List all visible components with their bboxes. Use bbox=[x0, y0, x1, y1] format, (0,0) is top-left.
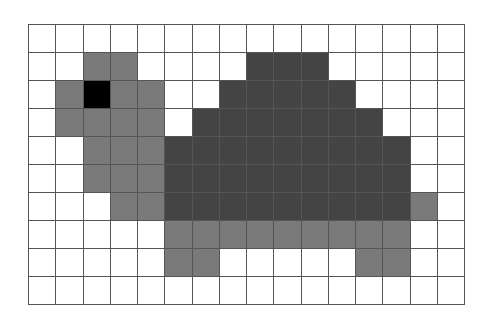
grid-cell-white bbox=[165, 81, 192, 109]
grid-cell-dark-gray bbox=[302, 137, 329, 165]
grid-cell-white bbox=[356, 81, 383, 109]
grid-cell-mid-gray bbox=[84, 137, 111, 165]
grid-cell-mid-gray bbox=[111, 53, 138, 81]
grid-cell-white bbox=[165, 277, 192, 305]
grid-cell-white bbox=[438, 249, 465, 277]
grid-cell-white bbox=[383, 81, 410, 109]
grid-cell-dark-gray bbox=[247, 193, 274, 221]
grid-cell-white bbox=[329, 25, 356, 53]
grid-cell-dark-gray bbox=[356, 165, 383, 193]
grid-cell-white bbox=[138, 25, 165, 53]
grid-cell-dark-gray bbox=[193, 137, 220, 165]
grid-cell-mid-gray bbox=[138, 81, 165, 109]
grid-cell-mid-gray bbox=[356, 249, 383, 277]
grid-cell-white bbox=[84, 277, 111, 305]
grid-cell-mid-gray bbox=[383, 221, 410, 249]
grid-cell-dark-gray bbox=[193, 193, 220, 221]
grid-cell-dark-gray bbox=[356, 193, 383, 221]
grid-cell-mid-gray bbox=[111, 165, 138, 193]
grid-cell-white bbox=[29, 25, 56, 53]
grid-cell-white bbox=[56, 53, 83, 81]
grid-cell-mid-gray bbox=[193, 249, 220, 277]
grid-cell-white bbox=[383, 109, 410, 137]
grid-cell-white bbox=[29, 277, 56, 305]
grid-cell-white bbox=[29, 249, 56, 277]
grid-cell-dark-gray bbox=[274, 137, 301, 165]
grid-cell-white bbox=[329, 249, 356, 277]
grid-cell-white bbox=[247, 277, 274, 305]
grid-cell-white bbox=[438, 137, 465, 165]
grid-cell-white bbox=[56, 193, 83, 221]
grid-cell-white bbox=[29, 81, 56, 109]
grid-cell-dark-gray bbox=[302, 165, 329, 193]
grid-cell-white bbox=[29, 137, 56, 165]
grid-cell-white bbox=[29, 221, 56, 249]
grid-cell-dark-gray bbox=[193, 109, 220, 137]
grid-cell-dark-gray bbox=[302, 53, 329, 81]
grid-cell-white bbox=[165, 25, 192, 53]
grid-cell-white bbox=[329, 277, 356, 305]
grid-cell-dark-gray bbox=[220, 165, 247, 193]
grid-cell-black bbox=[84, 81, 111, 109]
pixel-grid bbox=[28, 24, 465, 305]
grid-cell-white bbox=[29, 53, 56, 81]
grid-cell-dark-gray bbox=[274, 109, 301, 137]
grid-cell-white bbox=[193, 81, 220, 109]
grid-cell-mid-gray bbox=[302, 221, 329, 249]
grid-cell-white bbox=[411, 81, 438, 109]
grid-cell-white bbox=[84, 25, 111, 53]
grid-cell-white bbox=[138, 221, 165, 249]
grid-cell-mid-gray bbox=[84, 53, 111, 81]
grid-cell-dark-gray bbox=[329, 165, 356, 193]
grid-cell-mid-gray bbox=[411, 193, 438, 221]
grid-cell-white bbox=[56, 137, 83, 165]
grid-cell-mid-gray bbox=[220, 221, 247, 249]
grid-cell-white bbox=[220, 25, 247, 53]
grid-cell-white bbox=[220, 53, 247, 81]
grid-cell-white bbox=[29, 165, 56, 193]
grid-cell-dark-gray bbox=[329, 109, 356, 137]
grid-cell-dark-gray bbox=[165, 165, 192, 193]
grid-cell-white bbox=[438, 25, 465, 53]
grid-cell-mid-gray bbox=[356, 221, 383, 249]
grid-cell-white bbox=[438, 193, 465, 221]
grid-cell-dark-gray bbox=[274, 193, 301, 221]
grid-cell-dark-gray bbox=[220, 109, 247, 137]
grid-cell-dark-gray bbox=[329, 137, 356, 165]
grid-cell-white bbox=[411, 221, 438, 249]
grid-cell-white bbox=[56, 249, 83, 277]
grid-cell-white bbox=[84, 221, 111, 249]
grid-cell-white bbox=[247, 249, 274, 277]
grid-cell-white bbox=[138, 277, 165, 305]
grid-cell-dark-gray bbox=[383, 165, 410, 193]
grid-cell-mid-gray bbox=[111, 109, 138, 137]
grid-cell-mid-gray bbox=[138, 165, 165, 193]
grid-cell-white bbox=[165, 53, 192, 81]
grid-cell-white bbox=[438, 277, 465, 305]
grid-cell-white bbox=[111, 277, 138, 305]
grid-cell-white bbox=[274, 249, 301, 277]
grid-cell-white bbox=[274, 277, 301, 305]
grid-cell-white bbox=[329, 53, 356, 81]
grid-cell-mid-gray bbox=[383, 249, 410, 277]
grid-cell-white bbox=[56, 165, 83, 193]
grid-cell-dark-gray bbox=[383, 193, 410, 221]
grid-cell-mid-gray bbox=[56, 109, 83, 137]
grid-cell-mid-gray bbox=[84, 165, 111, 193]
grid-cell-white bbox=[302, 277, 329, 305]
grid-cell-white bbox=[411, 165, 438, 193]
grid-cell-white bbox=[302, 25, 329, 53]
grid-cell-white bbox=[438, 221, 465, 249]
grid-cell-mid-gray bbox=[84, 109, 111, 137]
grid-cell-mid-gray bbox=[165, 249, 192, 277]
grid-cell-white bbox=[411, 277, 438, 305]
grid-cell-dark-gray bbox=[302, 81, 329, 109]
grid-cell-dark-gray bbox=[247, 137, 274, 165]
grid-cell-white bbox=[56, 277, 83, 305]
grid-cell-dark-gray bbox=[165, 193, 192, 221]
grid-cell-white bbox=[411, 109, 438, 137]
grid-cell-white bbox=[29, 193, 56, 221]
grid-cell-white bbox=[356, 53, 383, 81]
grid-cell-white bbox=[111, 249, 138, 277]
grid-cell-white bbox=[411, 25, 438, 53]
